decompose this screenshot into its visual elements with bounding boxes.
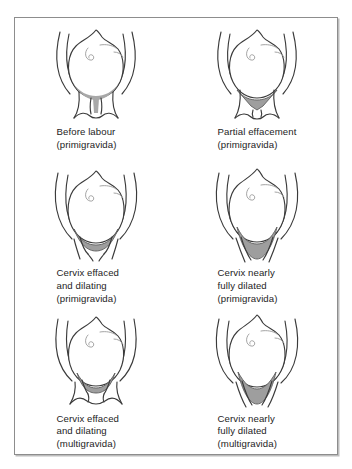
caption-before-labour-primigravida: Before labour (primigravida) — [35, 126, 157, 151]
caption-line-parity: (multigravida) — [57, 438, 157, 451]
caption-nearly-fully-dilated-multigravida: Cervix nearly fully dilated (multigravid… — [196, 413, 318, 451]
panel-partial-effacement-primigravida: Partial effacement (primigravida) — [176, 18, 337, 163]
caption-line-stage-2: fully dilated — [218, 280, 318, 293]
caption-line-stage: Before labour — [57, 126, 157, 139]
caption-line-stage-2: and dilating — [57, 425, 157, 438]
diagram-nearly-fully-dilated-multigravida — [191, 313, 323, 411]
caption-effaced-dilating-multigravida: Cervix effaced and dilating (multigravid… — [35, 413, 157, 451]
caption-line-parity: (primigravida) — [57, 293, 157, 306]
panel-nearly-fully-dilated-primigravida: Cervix nearly fully dilated (primigravid… — [176, 163, 337, 308]
caption-line-parity: (primigravida) — [218, 139, 318, 152]
diagram-partial-effacement-primigravida — [191, 26, 323, 124]
caption-partial-effacement-primigravida: Partial effacement (primigravida) — [196, 126, 318, 151]
caption-nearly-fully-dilated-primigravida: Cervix nearly fully dilated (primigravid… — [196, 267, 318, 305]
diagram-effaced-dilating-primigravida — [30, 167, 162, 265]
panel-before-labour-primigravida: Before labour (primigravida) — [15, 18, 176, 163]
panel-effaced-dilating-multigravida: Cervix effaced and dilating (multigravid… — [15, 309, 176, 454]
diagram-effaced-dilating-multigravida — [30, 313, 162, 411]
caption-line-stage-1: Cervix effaced — [57, 413, 157, 426]
caption-effaced-dilating-primigravida: Cervix effaced and dilating (primigravid… — [35, 267, 157, 305]
caption-line-stage-1: Cervix effaced — [57, 267, 157, 280]
panel-nearly-fully-dilated-multigravida: Cervix nearly fully dilated (multigravid… — [176, 309, 337, 454]
caption-line-stage-2: and dilating — [57, 280, 157, 293]
caption-line-stage-1: Cervix nearly — [218, 267, 318, 280]
caption-line-stage-2: fully dilated — [218, 425, 318, 438]
caption-line-parity: (primigravida) — [218, 293, 318, 306]
caption-line-stage-1: Cervix nearly — [218, 413, 318, 426]
figure-frame: Before labour (primigravida) — [14, 17, 338, 455]
panel-grid: Before labour (primigravida) — [15, 18, 337, 454]
diagram-before-labour-primigravida — [30, 26, 162, 124]
diagram-nearly-fully-dilated-primigravida — [191, 167, 323, 265]
caption-line-stage: Partial effacement — [218, 126, 318, 139]
caption-line-parity: (primigravida) — [57, 139, 157, 152]
panel-effaced-dilating-primigravida: Cervix effaced and dilating (primigravid… — [15, 163, 176, 308]
caption-line-parity: (multigravida) — [218, 438, 318, 451]
